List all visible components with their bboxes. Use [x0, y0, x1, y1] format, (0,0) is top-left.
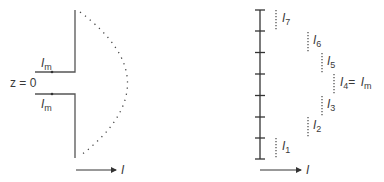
segment-label-3: I3	[327, 97, 335, 113]
segment-label-6: I6	[313, 33, 321, 49]
feed-current-label-top: Im	[41, 56, 52, 72]
segment-label-1: I1	[282, 139, 290, 155]
diagram-canvas: Im z = 0 Im I I7 I6 I5 I4	[0, 0, 384, 182]
current-axis-label-right: I	[306, 163, 310, 177]
segment-label-2: I2	[313, 118, 321, 134]
origin-label: z = 0	[10, 76, 37, 90]
left-dipole: Im z = 0 Im I	[10, 10, 128, 177]
right-segmented-dipole: I7 I6 I5 I4= Im I3 I2 I1 I	[255, 10, 372, 177]
segment-label-5: I5	[327, 54, 335, 70]
segment-current-bars	[276, 10, 334, 159]
current-distribution-curve	[80, 12, 128, 156]
segment-label-7: I7	[282, 11, 290, 27]
feed-current-label-bottom: Im	[41, 97, 52, 113]
feed-dot-bottom	[51, 93, 54, 96]
segment-label-4: I4= Im	[340, 75, 372, 91]
current-axis-label-left: I	[121, 163, 125, 177]
